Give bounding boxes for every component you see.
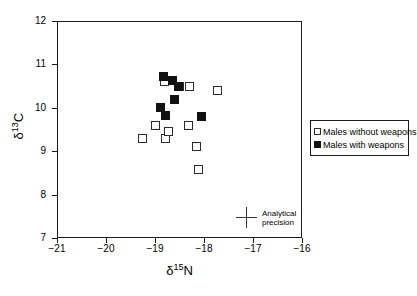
data-point-open — [194, 165, 203, 174]
y-tick-label: 11 — [20, 58, 46, 70]
x-tick-label: −20 — [86, 243, 126, 255]
legend: Males without weapons Males with weapons — [310, 120, 409, 156]
legend-item-males-without-weapons: Males without weapons — [314, 125, 406, 138]
data-point-open — [151, 121, 160, 130]
y-tick-label: 7 — [20, 232, 46, 244]
legend-label: Males with weapons — [323, 140, 404, 150]
y-tick — [52, 21, 57, 22]
y-axis-title-text: δ13C — [11, 113, 26, 140]
open-square-swatch-icon — [314, 128, 321, 135]
y-tick — [52, 151, 57, 152]
x-axis-title: δ15N — [57, 262, 302, 278]
y-tick — [52, 108, 57, 109]
data-point-filled — [197, 112, 206, 121]
plot-area — [57, 21, 302, 238]
data-point-open — [213, 86, 222, 95]
x-tick-label: −19 — [135, 243, 175, 255]
data-point-open — [192, 142, 201, 151]
y-tick — [52, 195, 57, 196]
y-tick — [52, 64, 57, 65]
x-tick-label: −16 — [282, 243, 322, 255]
x-axis-title-text: δ15N — [166, 263, 193, 278]
y-tick-label: 9 — [20, 145, 46, 157]
x-tick-label: −18 — [184, 243, 224, 255]
y-tick-label: 10 — [20, 102, 46, 114]
y-tick — [52, 238, 57, 239]
x-tick-label: −17 — [233, 243, 273, 255]
legend-item-males-with-weapons: Males with weapons — [314, 138, 406, 151]
y-tick-label: 8 — [20, 189, 46, 201]
x-tick-label: −21 — [37, 243, 77, 255]
analytical-precision-label: Analytical precision — [262, 209, 296, 227]
legend-label: Males without weapons — [323, 127, 417, 137]
data-point-filled — [170, 95, 179, 104]
error-bar-vertical-icon — [246, 207, 247, 228]
data-point-open — [164, 127, 173, 136]
data-point-open — [138, 134, 147, 143]
data-point-open — [185, 82, 194, 91]
filled-square-swatch-icon — [314, 141, 321, 148]
y-tick-label: 12 — [20, 15, 46, 27]
data-point-filled — [174, 82, 183, 91]
data-point-open — [184, 121, 193, 130]
data-point-filled — [161, 111, 170, 120]
